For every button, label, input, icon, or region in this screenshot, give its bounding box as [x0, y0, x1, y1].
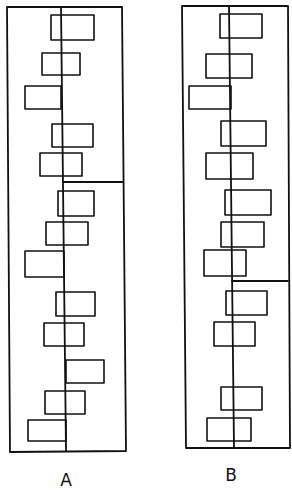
box: [66, 360, 104, 383]
center-line: [61, 7, 66, 451]
box: [25, 86, 61, 109]
box: [221, 121, 266, 146]
center-line: [229, 6, 234, 448]
bookcase-comparison-diagram: A B: [0, 0, 292, 495]
box: [46, 222, 88, 245]
panel-label: A: [60, 470, 72, 490]
panel-a: A: [7, 7, 126, 490]
box: [28, 420, 66, 441]
panel-frame: [7, 7, 126, 452]
box: [206, 153, 253, 179]
box: [52, 124, 93, 147]
box: [204, 250, 246, 276]
box: [221, 387, 262, 410]
box: [40, 153, 82, 176]
box: [214, 322, 255, 346]
panel-b: B: [182, 6, 290, 485]
box: [51, 15, 94, 40]
box: [221, 222, 264, 247]
box: [189, 86, 231, 109]
box: [56, 292, 95, 316]
panel-label: B: [225, 465, 237, 485]
panel-frame: [182, 6, 290, 448]
box: [220, 14, 262, 38]
box: [25, 251, 64, 277]
box: [207, 418, 251, 441]
